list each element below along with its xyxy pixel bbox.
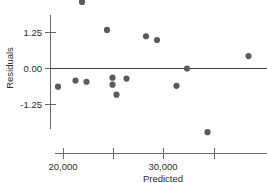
x-tick-label-1: 20,000 xyxy=(48,161,77,172)
x-tick-label-2: 30,000 xyxy=(148,161,177,172)
data-point xyxy=(83,79,89,85)
data-point xyxy=(173,83,179,89)
data-point xyxy=(204,129,210,135)
data-point xyxy=(123,75,129,81)
data-point xyxy=(184,65,190,71)
y-axis-title: Residuals xyxy=(4,47,15,89)
data-point xyxy=(113,92,119,98)
data-point xyxy=(104,27,110,33)
data-point xyxy=(245,53,251,59)
y-tick-label-3: -1.25 xyxy=(20,99,42,110)
residual-scatter-plot: 1.25 0.00 -1.25 Residuals 20,000 30,000 … xyxy=(0,0,267,183)
y-tick-label-1: 1.25 xyxy=(24,27,43,38)
data-point xyxy=(109,82,115,88)
data-point xyxy=(143,33,149,39)
data-point xyxy=(55,84,61,90)
data-point xyxy=(154,37,160,43)
x-axis-title: Predicted xyxy=(143,173,183,183)
y-tick-label-2: 0.00 xyxy=(24,63,43,74)
residual-plot-figure: 1.25 0.00 -1.25 Residuals 20,000 30,000 … xyxy=(0,0,267,183)
data-point xyxy=(79,0,85,5)
data-point xyxy=(72,78,78,84)
data-point xyxy=(109,75,115,81)
